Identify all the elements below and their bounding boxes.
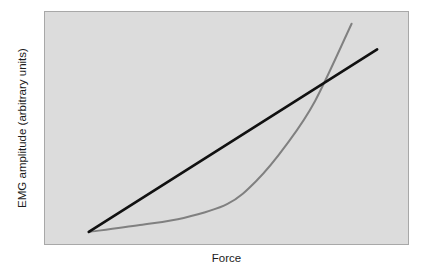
series-line-linear (89, 49, 377, 232)
series-line-curvilinear (89, 24, 352, 232)
plot-canvas (45, 12, 410, 246)
series-group (89, 24, 377, 232)
y-axis-title: EMG amplitude (arbitrary units) (14, 11, 30, 245)
x-axis-title: Force (44, 250, 409, 266)
emg-force-figure: EMG amplitude (arbitrary units) Force (0, 0, 426, 270)
plot-area (44, 11, 409, 245)
